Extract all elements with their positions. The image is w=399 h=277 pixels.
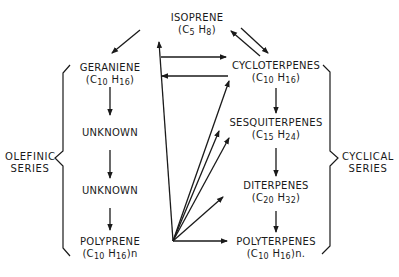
node-unknown-1: UNKNOWN bbox=[75, 127, 145, 139]
olefinic-line2: SERIES bbox=[5, 163, 55, 175]
arrow-polyprene-to-isoprene bbox=[159, 42, 173, 241]
arrow-polyprene-to-sesquiterpenes bbox=[173, 138, 229, 241]
cyclical-series-label: CYCLICAL SERIES bbox=[340, 151, 396, 175]
node-polyprene: POLYPRENE (C10 H16)n bbox=[70, 236, 150, 263]
isoprene-label: ISOPRENE bbox=[171, 12, 224, 23]
arrow-polyprene-to-sesquiterpenes-a bbox=[173, 131, 219, 241]
node-cycloterpenes: CYCLOTERPENES (C10 H16) bbox=[226, 60, 326, 87]
polyprene-label: POLYPRENE bbox=[80, 236, 140, 247]
isoprene-formula: (C5 H8) bbox=[152, 24, 242, 39]
geraniene-label: GERANIENE bbox=[80, 62, 141, 73]
sesquiterpenes-formula: (C15 H24) bbox=[224, 129, 328, 144]
cycloterpenes-label: CYCLOTERPENES bbox=[232, 60, 320, 71]
arrows-layer bbox=[0, 0, 399, 277]
unknown-2-label: UNKNOWN bbox=[82, 185, 138, 196]
node-diterpenes: DITERPENES (C20 H32) bbox=[231, 180, 321, 207]
arrow-isoprene-to-geraniene bbox=[112, 30, 140, 53]
node-polyterpenes: POLYTERPENES (C10 H16)n. bbox=[228, 236, 324, 263]
polyprene-formula: (C10 H16)n bbox=[70, 248, 150, 263]
geraniene-formula: (C10 H16) bbox=[70, 74, 150, 89]
node-geraniene: GERANIENE (C10 H16) bbox=[70, 62, 150, 89]
olefinic-line1: OLEFINIC bbox=[5, 151, 55, 163]
cyclical-line2: SERIES bbox=[340, 163, 396, 175]
sesquiterpenes-label: SESQUITERPENES bbox=[229, 117, 322, 128]
cycloterpenes-formula: (C10 H16) bbox=[226, 72, 326, 87]
olefinic-brace bbox=[55, 65, 70, 256]
cyclical-line1: CYCLICAL bbox=[340, 151, 396, 163]
node-isoprene: ISOPRENE (C5 H8) bbox=[152, 12, 242, 39]
arrow-isoprene-to-cycloterpenes bbox=[241, 28, 268, 53]
diterpenes-formula: (C20 H32) bbox=[231, 192, 321, 207]
node-sesquiterpenes: SESQUITERPENES (C15 H24) bbox=[224, 117, 328, 144]
node-unknown-2: UNKNOWN bbox=[75, 185, 145, 197]
diterpenes-label: DITERPENES bbox=[243, 180, 309, 191]
cyclical-brace bbox=[322, 65, 338, 254]
polyterpenes-formula: (C10 H16)n. bbox=[228, 248, 324, 263]
polyterpenes-label: POLYTERPENES bbox=[236, 236, 316, 247]
unknown-1-label: UNKNOWN bbox=[82, 127, 138, 138]
olefinic-series-label: OLEFINIC SERIES bbox=[5, 151, 55, 175]
